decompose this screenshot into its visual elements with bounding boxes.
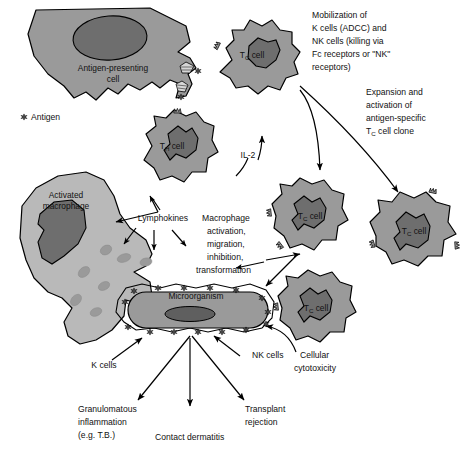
diagram-canvas: Antigen-presenting cell Antigen TC cell …	[0, 0, 462, 457]
granulomatous-line-1: Granulomatous	[78, 404, 137, 414]
macrophage-effect-line-3: migration,	[207, 239, 245, 249]
contact-dermatitis-label: Contact dermatitis	[155, 432, 224, 442]
granulomatous-line-3: (e.g. T.B.)	[78, 430, 115, 440]
macrophage-label-line2: macrophage	[43, 201, 90, 211]
expansion-line-3: antigen-specific	[366, 113, 426, 123]
mobilization-line-5: receptors)	[312, 62, 351, 72]
tc-top-label: TC cell	[240, 50, 265, 61]
lymphokines-label: Lymphokines	[138, 213, 188, 223]
macrophage-effect-line-5: transformation	[196, 265, 251, 275]
transplant-line-1: Transplant	[245, 404, 286, 414]
il2-label: IL-2	[241, 150, 256, 160]
k-cells-label: K cells	[91, 360, 116, 370]
cellular-cytotoxicity-line-1: Cellular	[300, 350, 329, 360]
transplant-line-2: rejection	[245, 417, 278, 427]
mobilization-line-4: Fc receptors or "NK"	[312, 49, 390, 59]
apc-label-line2: cell	[107, 74, 120, 84]
expansion-line-2: activation of	[366, 100, 412, 110]
macrophage-effect-line-2: activation,	[207, 226, 246, 236]
cellular-cytotoxicity-line-2: cytotoxicity	[294, 363, 337, 373]
mobilization-line-1: Mobilization of	[312, 10, 368, 20]
expansion-line-1: Expansion and	[366, 87, 423, 97]
mobilization-line-3: NK cells (killing via	[312, 36, 384, 46]
tc-lower-label: TC cell	[304, 303, 329, 314]
receptor-icon	[455, 241, 460, 249]
macrophage-effect-line-1: Macrophage	[202, 213, 250, 223]
apc-label-line1: Antigen-presenting	[78, 63, 149, 73]
macrophage-label-line1: Activated	[49, 190, 84, 200]
receptor-icon	[174, 108, 181, 113]
mobilization-line-2: K cells (ADCC) and	[312, 23, 387, 33]
microorganism-nucleus	[165, 307, 215, 322]
tc-mid-label: TC cell	[298, 211, 323, 222]
macrophage-effect-line-4: inhibition,	[207, 252, 243, 262]
microorganism-label: Microorganism	[169, 291, 224, 301]
antigen-legend-label: Antigen	[31, 112, 60, 122]
tc-right-label: TC cell	[402, 226, 427, 237]
nk-cells-label: NK cells	[252, 350, 284, 360]
th-label: TH cell	[160, 141, 185, 152]
granulomatous-line-2: inflammation	[78, 417, 127, 427]
